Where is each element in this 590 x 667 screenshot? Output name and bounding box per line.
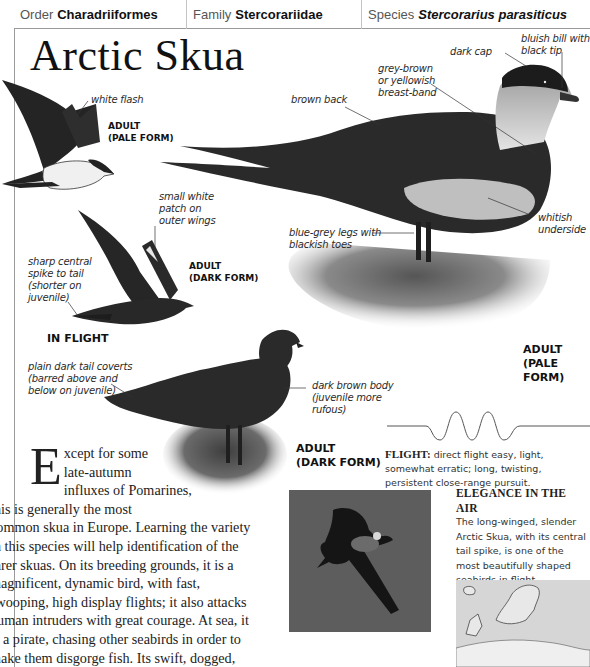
label-line: (juvenile more [312, 392, 394, 404]
label-dark-body: dark brown body (juvenile more rufous) [312, 380, 394, 416]
species-description: E xcept for some late-autumn influxes of… [30, 444, 550, 667]
drop-cap: E [30, 447, 62, 487]
form-label-flying-pale: ADULT (PALE FORM) [108, 120, 174, 144]
label-line: breast-band [378, 87, 436, 99]
label-line: plain dark tail coverts [28, 361, 132, 373]
species-key: Species [368, 7, 414, 22]
order-value: Charadriiformes [57, 7, 157, 22]
label-line: rufous) [312, 404, 394, 416]
form-label-line: (DARK FORM) [189, 272, 258, 284]
label-line: (shorter on [28, 280, 92, 292]
label-line: underside [538, 224, 586, 236]
body-line: xcept for some [30, 444, 550, 463]
family-cell: Family Stercorariidae [186, 0, 361, 29]
label-legs: blue-grey legs with blackish toes [289, 227, 381, 251]
label-line: dark brown body [312, 380, 394, 392]
label-tail-coverts: plain dark tail coverts (barred above an… [28, 361, 132, 397]
species-cell: Species Stercorarius parasiticus [361, 0, 590, 29]
label-line: black tip [521, 45, 590, 57]
label-line: (barred above and [28, 373, 132, 385]
taxonomy-header: Order Charadriiformes Family Stercorarii… [14, 0, 590, 29]
body-line: influxes of Pomarines, [0, 481, 550, 500]
form-label-line: ADULT [189, 260, 258, 272]
species-value: Stercorarius parasiticus [418, 7, 567, 22]
label-dark-cap: dark cap [450, 46, 492, 58]
in-flight-heading: IN FLIGHT [47, 332, 108, 346]
label-bill: bluish bill with black tip [521, 33, 590, 57]
label-line: or yellowish [378, 75, 436, 87]
label-line: whitish [538, 212, 586, 224]
label-white-flash: white flash [91, 94, 143, 106]
label-line: grey-brown [378, 63, 436, 75]
label-line: patch on [159, 203, 215, 215]
label-white-patch: small white patch on outer wings [159, 191, 215, 227]
label-line: blue-grey legs with [289, 227, 381, 239]
label-tail-spike: sharp central spike to tail (shorter on … [28, 256, 92, 304]
label-brown-back: brown back [291, 94, 347, 106]
flight-pattern-wave [387, 412, 590, 440]
family-key: Family [193, 7, 231, 22]
form-label-line: (PALE FORM) [523, 357, 590, 385]
label-line: juvenile) [28, 292, 92, 304]
order-key: Order [20, 7, 53, 22]
form-label-line: ADULT [523, 343, 590, 357]
label-line: sharp central [28, 256, 92, 268]
label-line: bluish bill with [521, 33, 590, 45]
label-breast-band: grey-brown or yellowish breast-band [378, 63, 436, 99]
label-underside: whitish underside [538, 212, 586, 236]
label-line: small white [159, 191, 215, 203]
label-line: below on juvenile) [28, 385, 132, 397]
family-value: Stercorariidae [235, 7, 322, 22]
order-cell: Order Charadriiformes [14, 0, 186, 29]
body-rest: common skua in Europe. Learning the vari… [0, 518, 254, 667]
form-label-line: ADULT [108, 120, 174, 132]
form-label-flying-dark: ADULT (DARK FORM) [189, 260, 258, 284]
form-label-standing-pale: ADULT (PALE FORM) [523, 343, 590, 385]
label-line: spike to tail [28, 268, 92, 280]
label-line: outer wings [159, 215, 215, 227]
form-label-line: (PALE FORM) [108, 132, 174, 144]
page-title: Arctic Skua [30, 30, 244, 81]
body-line: late-autumn [30, 463, 550, 482]
body-line: this is generally the most [0, 500, 550, 519]
standing-pale-adult-illustration [160, 65, 579, 330]
label-line: blackish toes [289, 239, 381, 251]
